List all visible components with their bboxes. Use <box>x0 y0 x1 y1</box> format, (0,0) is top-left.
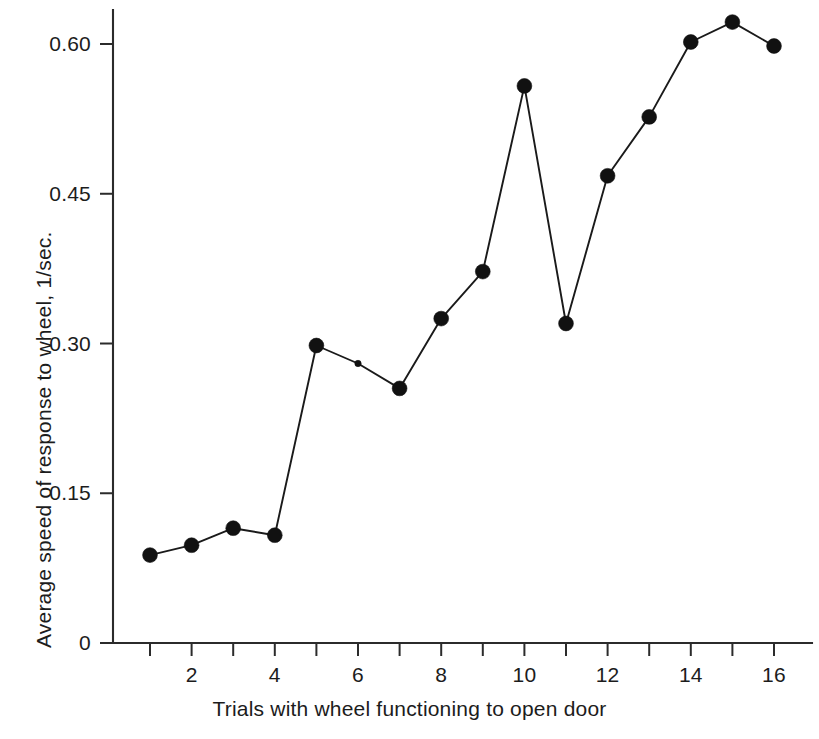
x-tick-label: 2 <box>186 663 198 687</box>
y-tick-label: 0 <box>79 631 91 655</box>
x-tick-label: 16 <box>762 663 786 687</box>
data-point-marker <box>559 316 574 331</box>
series-markers <box>143 15 782 563</box>
data-point-marker <box>267 528 282 543</box>
x-tick-label: 12 <box>596 663 620 687</box>
data-point-marker <box>683 35 698 50</box>
data-point-marker <box>143 548 158 563</box>
series-line <box>150 22 774 555</box>
x-axis-title: Trials with wheel functioning to open do… <box>0 697 819 721</box>
axes-group <box>100 10 812 656</box>
x-tick-label: 4 <box>269 663 281 687</box>
line-chart-figure: 00.150.300.450.60 246810121416 Average s… <box>0 0 819 739</box>
data-point-marker <box>517 79 532 94</box>
x-tick-label: 8 <box>435 663 447 687</box>
data-point-marker <box>392 381 407 396</box>
x-tick-label: 14 <box>679 663 703 687</box>
data-point-marker <box>767 39 782 54</box>
data-point-marker <box>355 360 361 366</box>
data-point-marker <box>725 15 740 30</box>
plot-area <box>0 0 819 739</box>
x-tick-label: 6 <box>352 663 364 687</box>
y-tick-marks <box>100 44 113 643</box>
data-point-marker <box>600 168 615 183</box>
axis-lines <box>113 10 812 643</box>
x-tick-label: 10 <box>513 663 537 687</box>
data-point-marker <box>184 538 199 553</box>
x-tick-marks <box>150 643 774 656</box>
data-point-marker <box>226 521 241 536</box>
data-point-marker <box>309 338 324 353</box>
data-point-marker <box>642 110 657 125</box>
data-point-marker <box>475 264 490 279</box>
data-point-marker <box>434 311 449 326</box>
data-series <box>143 15 782 563</box>
y-axis-title: Average speed of response to wheel, 1/se… <box>32 8 56 648</box>
